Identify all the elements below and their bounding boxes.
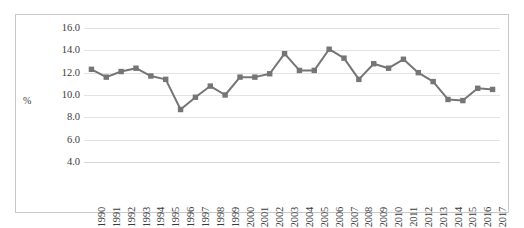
data-point-marker (208, 83, 213, 88)
x-tick-label: 2002 (274, 207, 285, 227)
data-point-marker (89, 67, 94, 72)
data-point-marker (148, 73, 153, 78)
data-point-marker (460, 98, 465, 103)
x-tick-label: 2006 (334, 207, 345, 227)
data-point-marker (104, 74, 109, 79)
plot-area (84, 28, 500, 162)
data-point-marker (416, 70, 421, 75)
x-tick-label: 1999 (230, 207, 241, 227)
x-tick-label: 1991 (111, 207, 122, 227)
data-point-marker (163, 77, 168, 82)
data-point-marker (118, 69, 123, 74)
y-tick-label: 10.0 (62, 90, 80, 101)
x-axis-tick-labels: 1990199119921993199419951996199719981999… (84, 165, 500, 209)
x-tick-label: 2013 (438, 207, 449, 227)
x-tick-label: 2008 (363, 207, 374, 227)
data-point-marker (267, 71, 272, 76)
data-point-marker (341, 55, 346, 60)
data-point-marker (193, 95, 198, 100)
y-axis-title: % (23, 95, 31, 106)
y-tick-label: 6.0 (67, 134, 80, 145)
data-point-marker (282, 51, 287, 56)
x-tick-label: 1994 (155, 207, 166, 227)
data-point-marker (178, 107, 183, 112)
y-tick-label: 8.0 (67, 112, 80, 123)
y-tick-label: 16.0 (62, 23, 80, 34)
x-tick-label: 2003 (289, 207, 300, 227)
x-tick-label: 2017 (497, 207, 508, 227)
y-tick-label: 12.0 (62, 67, 80, 78)
x-tick-label: 2016 (482, 207, 493, 227)
data-point-marker (401, 57, 406, 62)
data-point-marker (430, 79, 435, 84)
x-tick-label: 2004 (304, 207, 315, 227)
data-point-marker (297, 68, 302, 73)
y-axis-tick-labels: 16.014.012.010.08.06.04.0 (34, 15, 80, 212)
data-point-marker (371, 61, 376, 66)
data-point-marker (237, 74, 242, 79)
data-point-marker (252, 74, 257, 79)
x-tick-label: 1995 (170, 207, 181, 227)
x-tick-label: 2000 (245, 207, 256, 227)
x-axis-line (84, 162, 500, 163)
x-tick-label: 2005 (319, 207, 330, 227)
x-tick-label: 2011 (408, 207, 419, 227)
data-point-marker (475, 86, 480, 91)
x-tick-label: 2010 (393, 207, 404, 227)
y-tick-label: 4.0 (67, 157, 80, 168)
x-tick-label: 2001 (259, 207, 270, 227)
x-tick-label: 1993 (141, 207, 152, 227)
x-tick-label: 2014 (453, 207, 464, 227)
chart-figure: % 16.014.012.010.08.06.04.0 199019911992… (15, 14, 509, 213)
x-tick-label: 2009 (378, 207, 389, 227)
x-tick-label: 2015 (467, 207, 478, 227)
y-tick-label: 14.0 (62, 45, 80, 56)
x-tick-label: 1990 (96, 207, 107, 227)
series-line (84, 28, 500, 162)
x-tick-label: 2012 (423, 207, 434, 227)
data-point-marker (386, 66, 391, 71)
data-point-marker (490, 87, 495, 92)
data-point-marker (356, 77, 361, 82)
x-tick-label: 1992 (126, 207, 137, 227)
x-tick-label: 1998 (215, 207, 226, 227)
data-point-marker (312, 68, 317, 73)
x-tick-label: 1997 (200, 207, 211, 227)
x-tick-label: 1996 (185, 207, 196, 227)
data-point-marker (133, 66, 138, 71)
data-point-marker (326, 47, 331, 52)
data-point-marker (222, 92, 227, 97)
data-point-marker (445, 97, 450, 102)
x-tick-label: 2007 (349, 207, 360, 227)
